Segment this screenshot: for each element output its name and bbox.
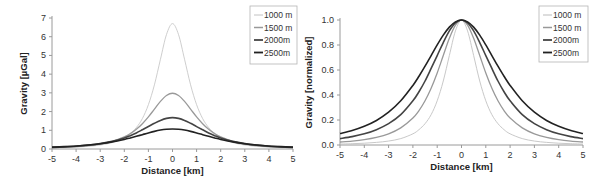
x-tick-label: 0 <box>459 150 464 160</box>
y-tick-label: 0.2 <box>321 115 334 125</box>
x-tick-label: 0 <box>170 154 175 164</box>
y-tick-label: 0.6 <box>321 65 334 75</box>
figure: 01234567-5-4-3-2-1012345Distance [km]Gra… <box>0 0 606 186</box>
y-tick-label: 1 <box>41 125 46 135</box>
y-tick-label: 4 <box>41 69 46 79</box>
series-line-2000m <box>52 118 293 148</box>
y-tick-label: 6 <box>41 32 46 42</box>
chart-absolute-gravity: 01234567-5-4-3-2-1012345Distance [km]Gra… <box>18 6 297 176</box>
y-tick-label: 0.8 <box>321 40 334 50</box>
legend: 1000 m1500 m2000m2500m <box>539 6 588 62</box>
y-axis-title: Gravity [normalized] <box>303 37 314 129</box>
y-tick-label: 1.0 <box>321 15 334 25</box>
x-axis-title: Distance [km] <box>430 161 492 172</box>
series-line-2500m <box>52 129 293 147</box>
x-axis-title: Distance [km] <box>141 165 203 176</box>
y-axis-title: Gravity [µGal] <box>18 52 29 115</box>
legend: 1000 m1500 m2000m2500m <box>250 6 297 64</box>
legend-label: 2000m <box>264 35 290 45</box>
x-tick-label: 3 <box>532 150 537 160</box>
legend-label: 1000 m <box>264 10 292 20</box>
legend-label: 1500 m <box>264 23 292 33</box>
y-tick-label: 2 <box>41 107 46 117</box>
x-tick-label: -5 <box>48 154 56 164</box>
x-tick-label: 5 <box>290 154 295 164</box>
x-tick-label: -3 <box>96 154 104 164</box>
chart-normalized-gravity: 0.00.20.40.60.81.0-5-4-3-2-1012345Distan… <box>303 6 588 172</box>
y-tick-label: 5 <box>41 50 46 60</box>
x-tick-label: -4 <box>360 150 368 160</box>
x-tick-label: -3 <box>385 150 393 160</box>
x-tick-label: -1 <box>433 150 441 160</box>
y-tick-label: 7 <box>41 13 46 23</box>
x-tick-label: 4 <box>266 154 271 164</box>
legend-label: 1000 m <box>553 10 581 20</box>
x-tick-label: 2 <box>218 154 223 164</box>
x-tick-label: 2 <box>508 150 513 160</box>
y-tick-label: 0.4 <box>321 90 334 100</box>
x-tick-label: 5 <box>580 150 585 160</box>
legend-label: 1500 m <box>553 23 581 33</box>
x-tick-label: 4 <box>556 150 561 160</box>
legend-label: 2500m <box>264 48 290 58</box>
x-tick-label: 1 <box>483 150 488 160</box>
y-tick-label: 3 <box>41 88 46 98</box>
x-tick-label: -4 <box>72 154 80 164</box>
x-tick-label: -5 <box>336 150 344 160</box>
y-tick-label: 0.0 <box>321 140 334 150</box>
series-line-1500m <box>52 93 293 147</box>
x-tick-label: -2 <box>120 154 128 164</box>
x-tick-label: -2 <box>409 150 417 160</box>
legend-label: 2500m <box>553 48 579 58</box>
legend-label: 2000m <box>553 35 579 45</box>
x-tick-label: 1 <box>194 154 199 164</box>
y-tick-label: 0 <box>41 144 46 154</box>
x-tick-label: 3 <box>242 154 247 164</box>
x-tick-label: -1 <box>144 154 152 164</box>
